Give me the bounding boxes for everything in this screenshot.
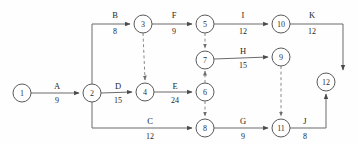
node-6[interactable]: 6 bbox=[196, 83, 214, 101]
edge-line-H bbox=[214, 57, 268, 59]
activity-duration-D: 15 bbox=[114, 96, 122, 105]
edge-activity-E: E 24 bbox=[154, 81, 192, 105]
activity-label-D: D bbox=[115, 81, 121, 91]
activity-duration-E: 24 bbox=[171, 96, 179, 105]
activity-label-A: A bbox=[54, 81, 61, 91]
node-4[interactable]: 4 bbox=[136, 83, 154, 101]
activity-duration-G: 9 bbox=[241, 132, 245, 141]
node-2[interactable]: 2 bbox=[83, 84, 101, 102]
edge-activity-H: H 15 bbox=[214, 46, 268, 70]
edge-activity-D: D 15 bbox=[101, 81, 132, 105]
node-1[interactable]: 1 bbox=[13, 84, 31, 102]
activity-label-E: E bbox=[172, 81, 177, 91]
edge-activity-C: C 12 bbox=[92, 102, 192, 141]
node-label-9: 9 bbox=[279, 53, 283, 62]
activity-label-J: J bbox=[303, 116, 307, 126]
activity-duration-I: 12 bbox=[239, 27, 247, 36]
network-diagram-canvas: A 9 B 8 C 12 D 15 E 24 F bbox=[0, 0, 358, 145]
activity-duration-A: 9 bbox=[55, 96, 59, 105]
edge-line-K bbox=[290, 24, 343, 70]
edge-activity-K: K 12 bbox=[290, 10, 343, 70]
edge-activity-J: J 8 bbox=[290, 94, 326, 141]
dummy-edge-3-to-4 bbox=[143, 33, 145, 80]
edge-line-B bbox=[92, 24, 130, 84]
edge-line-D bbox=[101, 92, 132, 93]
activity-duration-F: 9 bbox=[172, 27, 176, 36]
activity-duration-K: 12 bbox=[308, 27, 316, 36]
edge-activity-I: I 12 bbox=[214, 10, 268, 36]
activity-label-F: F bbox=[172, 10, 177, 20]
node-label-5: 5 bbox=[203, 20, 207, 29]
node-label-8: 8 bbox=[203, 124, 207, 133]
node-label-4: 4 bbox=[143, 88, 147, 97]
network-diagram: A 9 B 8 C 12 D 15 E 24 F bbox=[0, 0, 358, 145]
node-label-3: 3 bbox=[141, 20, 145, 29]
node-label-12: 12 bbox=[322, 78, 330, 87]
activity-label-B: B bbox=[112, 10, 118, 20]
node-7[interactable]: 7 bbox=[196, 51, 214, 69]
activity-duration-H: 15 bbox=[239, 61, 247, 70]
activity-duration-C: 12 bbox=[146, 132, 154, 141]
edge-activity-F: F 9 bbox=[152, 10, 192, 36]
node-9[interactable]: 9 bbox=[272, 48, 290, 66]
activity-duration-B: 8 bbox=[113, 27, 117, 36]
node-label-1: 1 bbox=[20, 89, 24, 98]
node-11[interactable]: 11 bbox=[272, 119, 290, 137]
node-10[interactable]: 10 bbox=[272, 15, 290, 33]
node-label-10: 10 bbox=[277, 20, 285, 29]
activity-label-G: G bbox=[240, 116, 246, 126]
activity-label-I: I bbox=[242, 10, 245, 20]
node-5[interactable]: 5 bbox=[196, 15, 214, 33]
node-label-11: 11 bbox=[277, 124, 285, 133]
node-label-6: 6 bbox=[203, 88, 207, 97]
activity-label-K: K bbox=[309, 10, 316, 20]
node-12[interactable]: 12 bbox=[317, 73, 335, 91]
node-label-2: 2 bbox=[90, 89, 94, 98]
node-label-7: 7 bbox=[203, 56, 207, 65]
edge-activity-A: A 9 bbox=[31, 81, 79, 105]
node-8[interactable]: 8 bbox=[196, 119, 214, 137]
activity-label-H: H bbox=[240, 46, 246, 56]
activity-label-C: C bbox=[147, 116, 153, 126]
edge-activity-G: G 9 bbox=[214, 116, 268, 141]
activity-duration-J: 8 bbox=[303, 132, 307, 141]
node-3[interactable]: 3 bbox=[134, 15, 152, 33]
edge-activity-B: B 8 bbox=[92, 10, 130, 84]
edge-line-J bbox=[290, 94, 326, 128]
edge-line-C bbox=[92, 102, 192, 128]
